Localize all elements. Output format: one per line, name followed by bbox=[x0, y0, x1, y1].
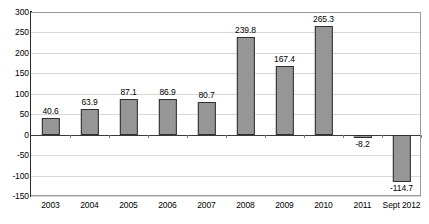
x-axis-tick-label: 2003 bbox=[31, 200, 70, 211]
bar-group: 80.7 bbox=[187, 12, 226, 196]
bar-group: 239.8 bbox=[226, 12, 265, 196]
bar-group: 86.9 bbox=[148, 12, 187, 196]
bar-group: 265.3 bbox=[304, 12, 343, 196]
y-axis-tick-label: 150 bbox=[3, 69, 29, 78]
x-axis-tick-label: 2011 bbox=[343, 200, 382, 211]
plot-area: 40.663.987.186.980.7239.8167.4265.3-8.2-… bbox=[31, 12, 421, 196]
x-axis-labels: 200320042005200620072008200920102011Sept… bbox=[31, 200, 421, 216]
y-axis-labels: 300250200150100500-50-100-150 bbox=[0, 0, 29, 224]
x-axis-tick-label: 2008 bbox=[226, 200, 265, 211]
bar[interactable] bbox=[236, 37, 254, 135]
bar-group: 63.9 bbox=[70, 12, 109, 196]
y-axis-tick-label: 250 bbox=[3, 28, 29, 37]
y-axis-tick-label: 100 bbox=[3, 89, 29, 98]
bar-value-label: 40.6 bbox=[42, 107, 58, 116]
bar[interactable] bbox=[197, 102, 215, 135]
bars-layer: 40.663.987.186.980.7239.8167.4265.3-8.2-… bbox=[31, 12, 421, 196]
bar-value-label: -114.7 bbox=[390, 184, 413, 193]
bar-value-label: 239.8 bbox=[235, 26, 256, 35]
bar[interactable] bbox=[392, 135, 410, 182]
bar-group: 87.1 bbox=[109, 12, 148, 196]
y-axis-tick-label: 300 bbox=[3, 8, 29, 17]
bar-value-label: 167.4 bbox=[274, 55, 295, 64]
x-axis-tick-label: 2004 bbox=[70, 200, 109, 211]
x-axis-tick-label: 2010 bbox=[304, 200, 343, 211]
y-axis-tick-label: 50 bbox=[3, 110, 29, 119]
bar-value-label: 80.7 bbox=[198, 91, 214, 100]
bar-value-label: -8.2 bbox=[355, 140, 369, 149]
bar-value-label: 265.3 bbox=[313, 15, 334, 24]
bar[interactable] bbox=[314, 26, 332, 134]
bar[interactable] bbox=[80, 109, 98, 135]
bar[interactable] bbox=[119, 99, 137, 135]
x-axis-tick-label: 2009 bbox=[265, 200, 304, 211]
y-axis-tick-label: 200 bbox=[3, 48, 29, 57]
bar-group: 167.4 bbox=[265, 12, 304, 196]
bar-group: -114.7 bbox=[382, 12, 421, 196]
bar-chart: 300250200150100500-50-100-150 40.663.987… bbox=[0, 0, 429, 224]
bar[interactable] bbox=[275, 66, 293, 134]
bar-group: 40.6 bbox=[31, 12, 70, 196]
x-axis-tick-label: 2005 bbox=[109, 200, 148, 211]
bar[interactable] bbox=[353, 135, 371, 138]
bar-value-label: 63.9 bbox=[81, 98, 97, 107]
y-axis-tick-label: -100 bbox=[3, 171, 29, 180]
y-axis-tick-label: 0 bbox=[3, 130, 29, 139]
gridline bbox=[31, 196, 421, 197]
axis-tick-mark bbox=[421, 135, 422, 138]
x-axis-tick-label: Sept 2012 bbox=[382, 200, 421, 211]
bar[interactable] bbox=[41, 118, 59, 135]
bar[interactable] bbox=[158, 99, 176, 135]
bar-value-label: 86.9 bbox=[159, 88, 175, 97]
bar-group: -8.2 bbox=[343, 12, 382, 196]
bar-value-label: 87.1 bbox=[120, 88, 136, 97]
y-axis-tick-label: -150 bbox=[3, 192, 29, 201]
x-axis-tick-label: 2006 bbox=[148, 200, 187, 211]
y-axis-tick-label: -50 bbox=[3, 151, 29, 160]
x-axis-tick-label: 2007 bbox=[187, 200, 226, 211]
